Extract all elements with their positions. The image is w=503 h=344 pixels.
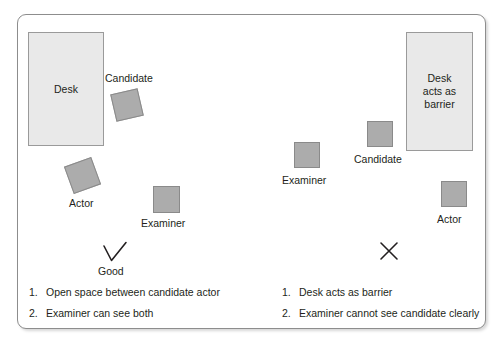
person-examiner-left (153, 186, 180, 213)
note-text: Desk acts as barrier (299, 286, 392, 298)
check-icon (102, 241, 128, 263)
diagram-canvas: Desk Candidate Actor Examiner Good 1. Op… (0, 0, 503, 344)
person-actor-right (441, 181, 467, 207)
desk-left-label: Desk (54, 83, 78, 96)
note-text: Examiner can see both (46, 307, 153, 319)
desk-left: Desk (28, 32, 104, 146)
person-candidate-right-label: Candidate (354, 153, 402, 165)
person-actor-right-label: Actor (437, 213, 462, 225)
note-item: 1. Open space between candidate actor (29, 286, 220, 298)
person-examiner-right-label: Examiner (282, 174, 326, 186)
verdict-label-good: Good (98, 265, 124, 277)
note-item: 2. Examiner can see both (29, 307, 220, 319)
note-item: 2. Examiner cannot see candidate clearly (282, 307, 479, 319)
person-examiner-left-label: Examiner (141, 217, 185, 229)
person-actor-left (64, 157, 101, 194)
desk-right-label: Desk acts as barrier (423, 72, 456, 111)
note-number: 1. (29, 286, 46, 298)
person-examiner-right (294, 142, 320, 168)
notes-good: 1. Open space between candidate actor 2.… (29, 286, 220, 328)
note-item: 1. Desk acts as barrier (282, 286, 479, 298)
note-number: 2. (282, 307, 299, 319)
person-candidate-left (110, 88, 144, 122)
note-number: 1. (282, 286, 299, 298)
notes-bad: 1. Desk acts as barrier 2. Examiner cann… (282, 286, 479, 328)
note-text: Examiner cannot see candidate clearly (299, 307, 479, 319)
note-text: Open space between candidate actor (46, 286, 220, 298)
person-candidate-left-label: Candidate (105, 72, 153, 84)
person-actor-left-label: Actor (69, 197, 94, 209)
desk-right: Desk acts as barrier (406, 32, 473, 151)
cross-icon (379, 241, 399, 261)
diagram-frame: Desk Candidate Actor Examiner Good 1. Op… (17, 14, 486, 329)
person-candidate-right (367, 121, 393, 147)
note-number: 2. (29, 307, 46, 319)
